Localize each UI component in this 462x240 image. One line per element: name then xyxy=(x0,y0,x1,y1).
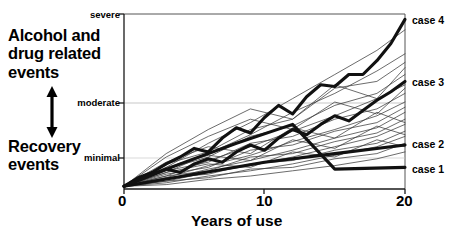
caption-alcohol-drug-events: Alcohol and drug related events Alcohol … xyxy=(8,26,101,81)
x-axis-title: Years of use xyxy=(191,212,282,230)
series-line-background-trajectory-11 xyxy=(124,119,405,186)
x-tick-label-10: 10 xyxy=(256,192,273,209)
y-tick-label-moderate: moderate xyxy=(54,97,120,108)
series-label-case-4: case 4 xyxy=(412,14,444,26)
trajectory-chart-figure: Alcohol and drug related events Alcohol … xyxy=(0,0,462,240)
caption-line-1: Alcohol and xyxy=(8,26,101,44)
series-label-case-2: case 2 xyxy=(412,138,444,150)
caption-line-2: drug related xyxy=(8,44,101,62)
y-tick-label-minimal: minimal xyxy=(58,152,120,163)
arrow-head-up-icon xyxy=(47,86,58,97)
series-label-case-3: case 3 xyxy=(412,76,444,88)
x-tick-label-20: 20 xyxy=(396,192,413,209)
caption-line-3: events xyxy=(8,63,101,81)
x-tick-label-0: 0 xyxy=(118,192,126,209)
y-tick-label-severe: severe xyxy=(62,9,120,20)
recovery-severity-arrow xyxy=(47,86,58,138)
series-label-case-1: case 1 xyxy=(412,163,444,175)
